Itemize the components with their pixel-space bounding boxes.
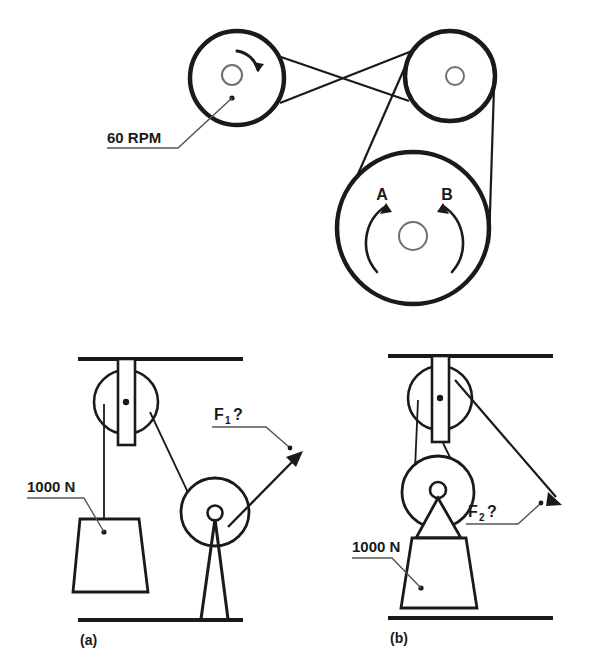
driven-pulley: A B	[337, 152, 489, 304]
label-load-b: 1000 N	[352, 538, 400, 555]
stand-pulley-a-hub	[208, 506, 223, 521]
weight-a	[73, 519, 148, 592]
caption-a: (a)	[80, 632, 97, 648]
force-a-leader-dot	[288, 446, 293, 451]
figure-canvas: A B 60 RPM 1000 N	[0, 0, 608, 663]
label-point-a: A	[376, 186, 388, 203]
driven-pulley-hub	[399, 222, 427, 250]
driver-pulley-hub	[222, 65, 242, 85]
label-rpm: 60 RPM	[107, 129, 161, 146]
fixed-pulley-a-axle	[123, 399, 129, 405]
mechanics-figure: A B 60 RPM 1000 N	[0, 0, 608, 663]
caption-b: (b)	[390, 630, 408, 646]
force-b-leader-dot	[539, 501, 544, 506]
label-force-b-subscript: 2	[479, 512, 485, 523]
idler-pulley-hub	[446, 67, 464, 85]
label-point-b: B	[441, 186, 453, 203]
label-force-b: F	[468, 503, 478, 520]
label-force-a-question: ?	[233, 406, 243, 423]
label-force-a: F	[214, 406, 224, 423]
label-load-a: 1000 N	[27, 478, 75, 495]
idler-pulley	[405, 31, 495, 121]
weight-b	[401, 538, 477, 608]
driver-pulley	[190, 31, 284, 125]
label-force-b-question: ?	[487, 503, 497, 520]
fixed-pulley-b-axle	[437, 395, 443, 401]
label-force-a-subscript: 1	[225, 415, 231, 426]
